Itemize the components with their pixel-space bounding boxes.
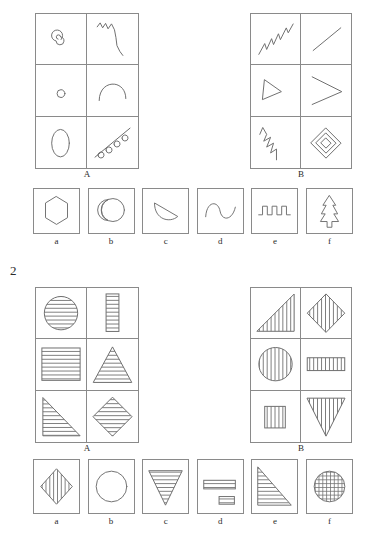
option-f-label-problem-2: f — [306, 516, 353, 526]
matrix-cell-b6-nested-diamond — [301, 117, 351, 168]
option-a-problem-1[interactable]: a — [33, 188, 80, 246]
option-b-box-problem-1[interactable] — [88, 188, 135, 234]
option-f-label-problem-1: f — [306, 236, 353, 246]
option-e-problem-1[interactable]: e — [251, 188, 298, 246]
matrix-a-label-problem-2: A — [35, 443, 139, 453]
option-b-problem-1[interactable]: b — [88, 188, 135, 246]
option-e-label-problem-2: e — [251, 516, 298, 526]
option-c-box-problem-2[interactable] — [142, 459, 189, 514]
matrix-cell-a1-spiral — [36, 14, 87, 65]
matrix-cell-b5-descending-zigzag — [251, 117, 301, 168]
matrix-cell-a5-right-triangle-hlines — [36, 391, 87, 442]
option-a-box-problem-2[interactable] — [33, 459, 80, 514]
matrix-cell-b4-chevron — [301, 65, 351, 116]
option-e-label-problem-1: e — [251, 236, 298, 246]
option-b-label-problem-2: b — [88, 516, 135, 526]
matrix-cell-a3-square-hlines — [36, 339, 87, 390]
matrix-cell-a5-ellipse — [36, 117, 87, 168]
option-a-problem-2[interactable]: a — [33, 459, 80, 526]
options-row-problem-2: a b c d — [33, 459, 353, 526]
matrix-cell-a2-tall-rect-hlines — [87, 288, 138, 339]
matrix-cell-b3-circle-vlines — [251, 339, 301, 390]
matrix-cell-b1-ascending-zigzag — [251, 14, 301, 65]
option-a-label-problem-2: a — [33, 516, 80, 526]
option-d-label-problem-1: d — [197, 236, 244, 246]
option-c-problem-2[interactable]: c — [142, 459, 189, 526]
option-d-problem-1[interactable]: d — [197, 188, 244, 246]
matrix-cell-b1-right-triangle-vlines — [251, 288, 301, 339]
matrix-cell-a4-arch — [87, 65, 138, 116]
matrix-cell-a4-triangle-up-hlines — [87, 339, 138, 390]
option-c-problem-1[interactable]: c — [142, 188, 189, 246]
option-a-label-problem-1: a — [33, 236, 80, 246]
option-c-label-problem-2: c — [142, 516, 189, 526]
matrix-cell-a1-circle-hlines — [36, 288, 87, 339]
option-a-box-problem-1[interactable] — [33, 188, 80, 234]
option-d-problem-2[interactable]: d — [197, 459, 244, 526]
matrix-cell-a6-diamond-hlines — [87, 391, 138, 442]
matrix-cell-b4-wide-rect-vlines — [301, 339, 351, 390]
matrix-cell-b2-diagonal-line — [301, 14, 351, 65]
matrix-cell-b5-small-square-vlines — [251, 391, 301, 442]
option-b-box-problem-2[interactable] — [88, 459, 135, 514]
option-f-box-problem-1[interactable] — [306, 188, 353, 234]
option-f-problem-2[interactable]: f — [306, 459, 353, 526]
matrix-b-problem-2 — [250, 287, 352, 443]
matrix-b-label-problem-2: B — [250, 443, 352, 453]
option-e-problem-2[interactable]: e — [251, 459, 298, 526]
option-b-label-problem-1: b — [88, 236, 135, 246]
matrix-a-problem-2 — [35, 287, 139, 443]
option-f-box-problem-2[interactable] — [306, 459, 353, 514]
matrix-cell-a2-zigzag-curve — [87, 14, 138, 65]
option-e-box-problem-1[interactable] — [251, 188, 298, 234]
matrix-a-problem-1 — [35, 13, 139, 169]
option-d-box-problem-1[interactable] — [197, 188, 244, 234]
matrix-cell-b6-triangle-down-vlines — [301, 391, 351, 442]
matrix-cell-b3-triangle-outline — [251, 65, 301, 116]
matrix-b-problem-1 — [250, 13, 352, 169]
matrix-cell-b2-diamond-vlines — [301, 288, 351, 339]
option-b-problem-2[interactable]: b — [88, 459, 135, 526]
option-c-box-problem-1[interactable] — [142, 188, 189, 234]
option-e-box-problem-2[interactable] — [251, 459, 298, 514]
matrix-b-label-problem-1: B — [250, 169, 352, 179]
matrix-a-label-problem-1: A — [35, 169, 139, 179]
matrix-cell-a3-small-circle — [36, 65, 87, 116]
option-f-problem-1[interactable]: f — [306, 188, 353, 246]
problem-number-2: 2 — [10, 263, 17, 279]
option-c-label-problem-1: c — [142, 236, 189, 246]
matrix-cell-a6-looped-line — [87, 117, 138, 168]
option-d-label-problem-2: d — [197, 516, 244, 526]
option-d-box-problem-2[interactable] — [197, 459, 244, 514]
options-row-problem-1: a b c d — [33, 188, 353, 246]
